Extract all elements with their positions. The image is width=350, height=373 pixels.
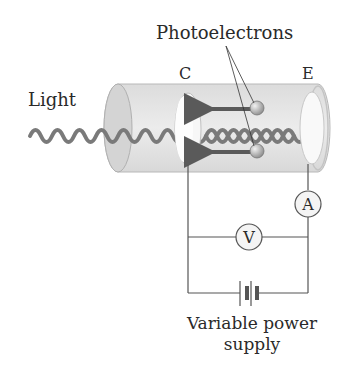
power-supply-label-line1: Variable power [186,313,318,333]
cathode-label: C [179,64,191,83]
ammeter: A [295,191,321,217]
electron-top [250,101,264,115]
ammeter-label: A [301,195,314,214]
voltmeter: V [236,224,262,250]
voltmeter-label: V [242,228,255,247]
photoelectrons-label: Photoelectrons [156,22,293,43]
power-supply-label-line2: supply [224,334,281,354]
emitter-label: E [302,64,314,83]
plate-c [175,93,201,165]
plate-e [300,92,324,164]
light-label: Light [28,89,77,110]
vacuum-tube [104,84,330,172]
photoelectric-diagram: Photoelectrons Light C E A V Variable po… [0,0,350,373]
electron-bottom [250,144,264,158]
battery-icon [240,281,259,306]
tube-left-end [104,84,132,172]
